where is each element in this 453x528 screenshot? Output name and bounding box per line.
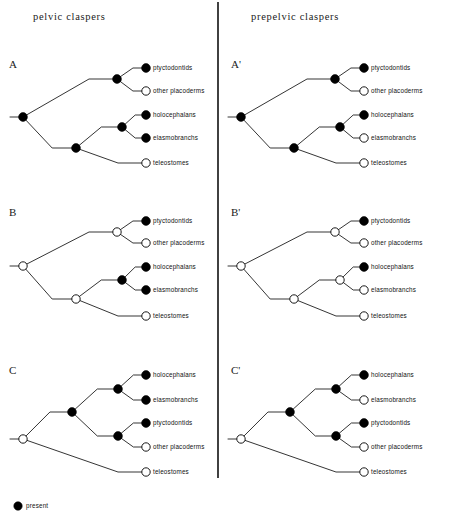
panel-C: holocephalanselasmobranchsptyctodontidso…: [9, 364, 205, 476]
tip-label-holocephalans: holocephalans: [371, 111, 414, 119]
tip-label-teleostomes: teleostomes: [153, 468, 189, 475]
legend: present: [14, 502, 49, 510]
tip-node-ptyctodontids: [142, 64, 151, 73]
tip-label-teleostomes: teleostomes: [153, 312, 189, 319]
branch-to-crown-chondrichthyes: [76, 127, 122, 148]
ptyctodont-placoderm-node: [331, 228, 339, 236]
tip-label-elasmobranchs: elasmobranchs: [153, 134, 198, 141]
tip-label-elasmobranchs: elasmobranchs: [371, 134, 416, 141]
ptyctodont-placoderm-node: [113, 228, 121, 236]
tip-label-elasmobranchs: elasmobranchs: [153, 286, 198, 293]
gnathostome-crown-node: [68, 408, 77, 417]
tip-node-elasmobranchs: [142, 396, 151, 405]
cladogram-figure: pelvic claspersprepelvic claspers ptycto…: [0, 0, 453, 528]
tip-label-elasmobranchs: elasmobranchs: [371, 286, 416, 293]
chondrichthyan-stem-node: [290, 295, 298, 303]
tip-node-other-placoderms: [360, 87, 368, 95]
tip-node-teleostomes: [360, 468, 368, 476]
column-title-right: prepelvic claspers: [251, 11, 339, 22]
tip-node-other-placoderms: [142, 239, 150, 247]
tip-node-teleostomes: [142, 312, 150, 320]
panel-A: ptyctodontidsother placodermsholocephala…: [9, 58, 205, 167]
tip-label-other-placoderms: other placoderms: [371, 443, 423, 451]
tip-label-holocephalans: holocephalans: [153, 371, 196, 379]
tip-node-elasmobranchs: [142, 286, 151, 295]
tip-label-holocephalans: holocephalans: [371, 263, 414, 271]
tip-node-elasmobranchs: [360, 134, 368, 142]
tip-label-ptyctodontids: ptyctodontids: [371, 419, 410, 427]
panel-Bprime: ptyctodontidsother placodermsholocephala…: [228, 206, 423, 320]
branch-root-to-chondrichthyan: [241, 266, 294, 299]
legend-present-label: present: [26, 502, 48, 510]
panel-letter-Cprime: C': [231, 364, 240, 376]
tip-node-teleostomes: [142, 159, 150, 167]
panels-container: ptyctodontidsother placodermsholocephala…: [9, 58, 423, 476]
branch-to-other-placoderms: [117, 79, 146, 91]
tip-label-holocephalans: holocephalans: [153, 263, 196, 271]
tip-node-holocephalans: [360, 111, 369, 120]
tip-node-other-placoderms: [360, 443, 368, 451]
panel-letter-C: C: [9, 364, 16, 376]
crown-chondrichthyan-node: [118, 276, 127, 285]
panel-Aprime: ptyctodontidsother placodermsholocephala…: [228, 58, 423, 167]
branch-to-other-placoderms: [335, 79, 364, 91]
crown-chondrichthyan-node: [118, 123, 127, 132]
tip-node-ptyctodontids: [360, 419, 369, 428]
branch-root-to-placoderm: [23, 232, 117, 266]
panel-B: ptyctodontidsother placodermsholocephala…: [9, 206, 205, 320]
root-node: [19, 262, 27, 270]
branch-to-crown-chondrichthyes: [294, 127, 340, 148]
tip-node-ptyctodontids: [360, 64, 369, 73]
legend-present-icon: [14, 502, 22, 510]
tip-label-teleostomes: teleostomes: [371, 159, 407, 166]
column-headers: pelvic claspersprepelvic claspers: [33, 11, 339, 22]
branch-to-other-placoderms: [117, 232, 146, 243]
tip-node-holocephalans: [142, 263, 151, 272]
panel-Cprime: holocephalanselasmobranchsptyctodontidso…: [228, 364, 423, 476]
tip-node-holocephalans: [360, 263, 369, 272]
root-node: [19, 435, 27, 443]
root-node: [237, 262, 245, 270]
tip-label-teleostomes: teleostomes: [371, 312, 407, 319]
tip-label-other-placoderms: other placoderms: [153, 87, 205, 95]
tip-node-ptyctodontids: [360, 217, 369, 226]
tip-node-other-placoderms: [142, 443, 150, 451]
branch-to-crown-chondrichthyes: [290, 389, 336, 412]
branch-root-to-placoderm: [23, 79, 117, 117]
tip-node-holocephalans: [142, 111, 151, 120]
tip-label-elasmobranchs: elasmobranchs: [153, 396, 198, 403]
branch-to-teleostomes: [76, 148, 146, 163]
tip-label-other-placoderms: other placoderms: [371, 239, 423, 247]
root-node: [237, 113, 246, 122]
branch-to-placoderm-clade: [290, 412, 336, 436]
tip-node-holocephalans: [360, 371, 369, 380]
tip-node-other-placoderms: [360, 239, 368, 247]
tip-label-teleostomes: teleostomes: [371, 468, 407, 475]
branch-root-to-gnathostomes: [23, 412, 72, 439]
tip-node-ptyctodontids: [142, 419, 151, 428]
crown-chondrichthyan-node: [336, 276, 344, 284]
panel-letter-Bprime: B': [231, 206, 240, 218]
tip-label-teleostomes: teleostomes: [153, 159, 189, 166]
placoderm-clade-node: [332, 432, 341, 441]
branch-to-crown-chondrichthyes: [294, 280, 340, 299]
crown-chondrichthyan-node: [336, 123, 345, 132]
branch-to-teleostomes: [241, 439, 364, 472]
branch-to-crown-chondrichthyes: [72, 389, 118, 412]
panel-letter-A: A: [9, 58, 17, 70]
ptyctodont-placoderm-node: [331, 75, 340, 84]
root-node: [237, 435, 245, 443]
tip-node-holocephalans: [142, 371, 151, 380]
ptyctodont-placoderm-node: [113, 75, 122, 84]
chondrichthyan-stem-node: [290, 144, 299, 153]
crown-chondrichthyan-node: [114, 385, 123, 394]
tip-label-ptyctodontids: ptyctodontids: [371, 64, 410, 72]
tip-label-ptyctodontids: ptyctodontids: [153, 64, 192, 72]
branch-root-to-chondrichthyan: [23, 117, 76, 148]
branch-to-teleostomes: [23, 439, 146, 472]
tip-node-ptyctodontids: [142, 217, 151, 226]
tip-node-elasmobranchs: [142, 134, 151, 143]
tip-label-ptyctodontids: ptyctodontids: [153, 419, 192, 427]
tip-label-other-placoderms: other placoderms: [153, 239, 205, 247]
tip-node-elasmobranchs: [360, 286, 368, 294]
